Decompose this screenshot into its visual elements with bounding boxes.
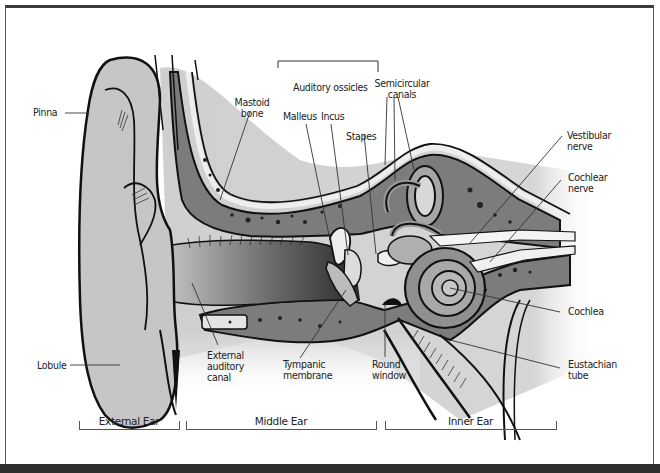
section-external-ear: External Ear — [79, 415, 179, 427]
section-middle-ear: Middle Ear — [186, 415, 376, 427]
label-eustachian-tube: Eustachian tube — [568, 359, 617, 381]
label-cochlea: Cochlea — [568, 306, 604, 317]
ear-anatomy-illustration — [0, 0, 660, 473]
label-external-auditory-canal: External auditory canal — [207, 350, 244, 383]
label-tympanic-membrane: Tympanic membrane — [283, 359, 332, 381]
label-auditory-ossicles: Auditory ossicles — [293, 82, 368, 93]
label-mastoid-bone: Mastoid bone — [232, 97, 272, 119]
label-lobule: Lobule — [37, 360, 66, 371]
label-semicircular-canals: Semicircular canals — [374, 78, 430, 100]
label-stapes: Stapes — [346, 131, 376, 142]
ossicles-bracket — [278, 61, 378, 72]
label-round-window: Round window — [372, 359, 406, 381]
label-malleus: Malleus — [283, 111, 317, 122]
section-inner-ear: Inner Ear — [385, 415, 556, 427]
label-vestibular-nerve: Vestibular nerve — [567, 130, 611, 152]
label-incus: Incus — [321, 111, 344, 122]
label-cochlear-nerve: Cochlear nerve — [568, 172, 607, 194]
cochlea-shape — [405, 248, 485, 328]
label-pinna: Pinna — [33, 107, 57, 118]
